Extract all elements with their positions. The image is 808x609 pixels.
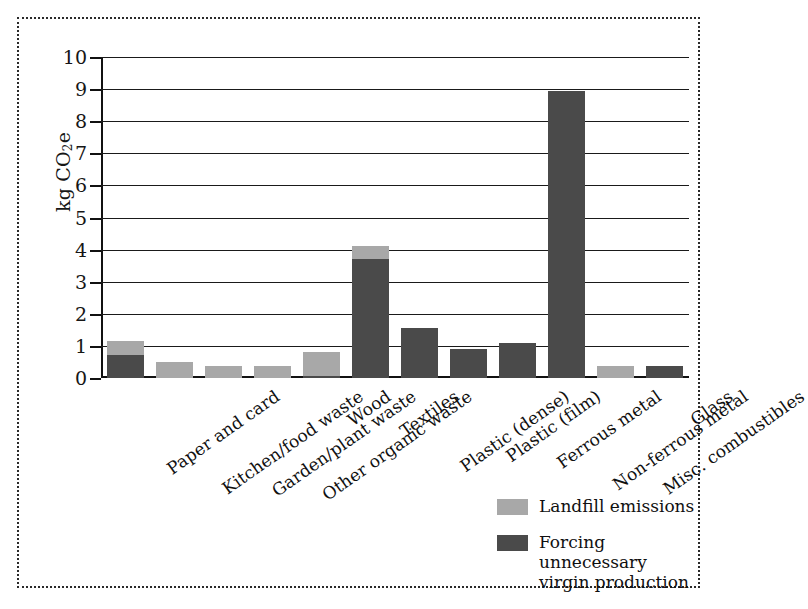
y-tick-label: 3 — [75, 272, 87, 291]
legend-item-virgin-production: Forcing unnecessary virgin production — [497, 532, 697, 592]
y-tick-label: 8 — [75, 112, 87, 131]
legend-item-landfill: Landfill emissions — [497, 496, 697, 516]
y-tick-mark — [90, 346, 101, 348]
y-axis-label-subscript: 2 — [61, 143, 75, 151]
y-tick-mark — [90, 57, 101, 59]
bar-segment-virgin-production — [548, 91, 585, 378]
y-axis-label-text: kg CO — [52, 151, 74, 212]
y-tick-label: 9 — [75, 80, 87, 99]
y-tick-mark — [90, 314, 101, 316]
bar-segment-virgin-production — [303, 376, 340, 378]
legend-label-virgin-production: Forcing unnecessary virgin production — [539, 532, 697, 592]
y-tick-mark — [90, 250, 101, 252]
y-tick-mark — [90, 121, 101, 123]
bar-other-organic-waste[interactable] — [254, 57, 291, 378]
y-tick-mark — [90, 89, 101, 91]
y-tick-mark — [90, 218, 101, 220]
bar-paper-and-card[interactable] — [107, 57, 144, 378]
bar-segment-landfill — [205, 366, 242, 378]
y-axis-label: kg CO2e — [52, 132, 75, 212]
y-tick-label: 5 — [75, 208, 87, 227]
y-axis-label-suffix: e — [52, 132, 74, 143]
bar-kitchen-food-waste[interactable] — [156, 57, 193, 378]
bar-segment-virgin-production — [352, 259, 389, 378]
legend-swatch-landfill — [497, 499, 528, 515]
chart-legend: Landfill emissions Forcing unnecessary v… — [497, 496, 697, 608]
bar-segment-virgin-production — [646, 366, 683, 378]
bar-garden-plant-waste[interactable] — [205, 57, 242, 378]
bar-group — [101, 57, 689, 378]
bar-segment-landfill — [303, 352, 340, 376]
bar-segment-virgin-production — [401, 328, 438, 378]
bar-ferrous-metal[interactable] — [499, 57, 536, 378]
bar-misc-combustibles[interactable] — [597, 57, 634, 378]
y-tick-label: 10 — [63, 48, 87, 67]
bar-segment-landfill — [254, 366, 291, 378]
bar-textiles[interactable] — [352, 57, 389, 378]
bar-segment-landfill — [597, 366, 634, 378]
bar-plastic-film[interactable] — [450, 57, 487, 378]
bar-segment-virgin-production — [107, 355, 144, 378]
y-tick-label: 4 — [75, 240, 87, 259]
bar-wood[interactable] — [303, 57, 340, 378]
y-tick-mark — [90, 153, 101, 155]
y-tick-mark — [90, 282, 101, 284]
y-tick-label: 1 — [75, 336, 87, 355]
bar-plastic-dense[interactable] — [401, 57, 438, 378]
bar-segment-landfill — [352, 246, 389, 258]
bar-segment-virgin-production — [450, 349, 487, 378]
bar-glass[interactable] — [646, 57, 683, 378]
y-tick-label: 0 — [75, 369, 87, 388]
y-tick-mark — [90, 378, 101, 380]
bar-segment-landfill — [107, 341, 144, 355]
legend-label-landfill: Landfill emissions — [539, 496, 694, 516]
plot-area: 012345678910 — [101, 57, 689, 378]
y-tick-mark — [90, 185, 101, 187]
legend-swatch-virgin-production — [497, 535, 528, 551]
y-tick-label: 6 — [75, 176, 87, 195]
y-tick-label: 7 — [75, 144, 87, 163]
bar-segment-virgin-production — [499, 343, 536, 378]
bar-non-ferrous-metal[interactable] — [548, 57, 585, 378]
bar-segment-landfill — [156, 362, 193, 378]
y-tick-label: 2 — [75, 304, 87, 323]
